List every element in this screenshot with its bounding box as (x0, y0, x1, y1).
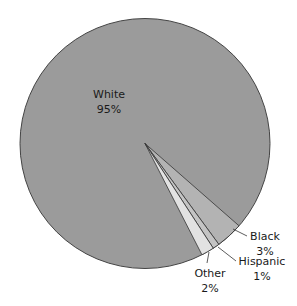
leader-line-other (207, 252, 209, 263)
label-white-value: 95% (97, 103, 121, 116)
leader-line-hispanic (218, 247, 236, 261)
label-other-value: 2% (201, 282, 218, 295)
pie-chart: White 95% Black 3% Hispanic 1% Other 2% (0, 0, 297, 306)
leader-line-black (233, 229, 247, 236)
label-hispanic-value: 1% (253, 270, 270, 283)
pie-slices (20, 19, 270, 269)
label-black-name: Black (250, 230, 280, 243)
label-hispanic-name: Hispanic (239, 255, 286, 268)
label-white-name: White (93, 88, 125, 101)
label-other-name: Other (194, 267, 226, 280)
